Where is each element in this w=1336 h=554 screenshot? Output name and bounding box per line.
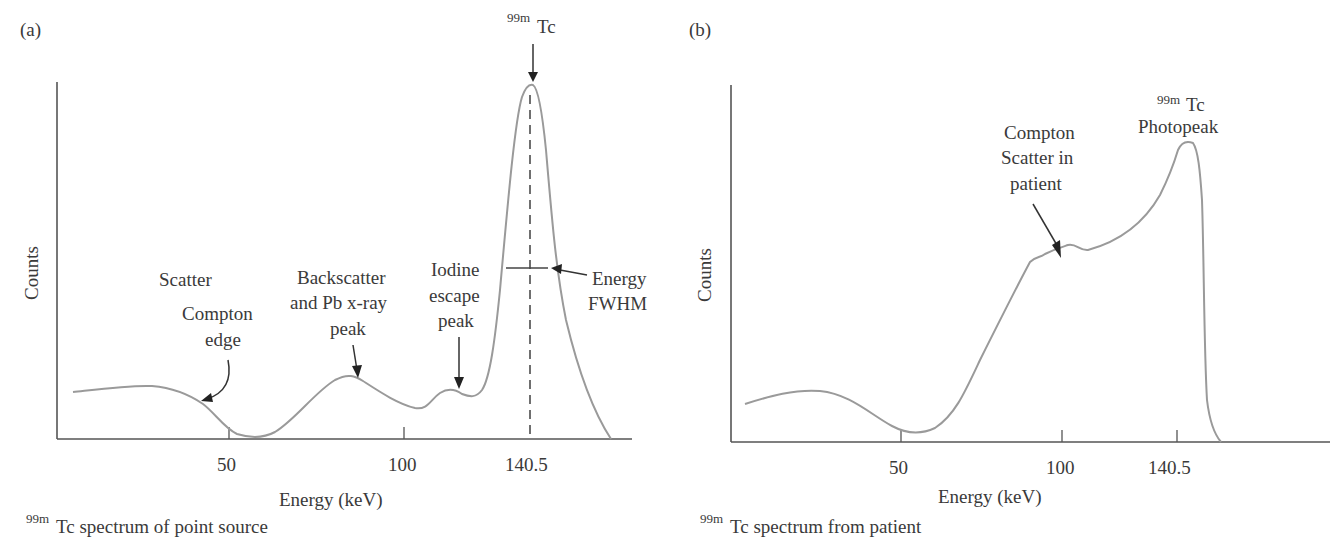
x-tick-label-140-5: 140.5 <box>1148 457 1191 478</box>
figure: (a) 99m Tc Scatter Compton edge Backscat… <box>0 0 1336 554</box>
compton-scatter-label-3: patient <box>1010 173 1062 194</box>
caption: Tc spectrum from patient <box>730 516 922 537</box>
x-tick-label-140-5: 140.5 <box>505 454 548 475</box>
y-axis-label: Counts <box>694 248 715 302</box>
panel-a-label: (a) <box>20 19 41 41</box>
spectrum-curve <box>745 142 1221 442</box>
x-tick-label-50: 50 <box>217 454 236 475</box>
scatter-label: Scatter <box>159 269 212 290</box>
compton-scatter-label-2: Scatter in <box>1001 147 1074 168</box>
compton-scatter-label-1: Compton <box>1004 122 1075 143</box>
photopeak-label-2: Photopeak <box>1138 116 1219 137</box>
fwhm-label-2: FWHM <box>588 293 647 314</box>
compton-edge-arrow <box>207 360 229 399</box>
caption-sup: 99m <box>26 511 49 526</box>
photopeak-sup: 99m <box>507 10 530 25</box>
backscatter-label-3: peak <box>330 318 366 339</box>
photopeak-label: Tc <box>537 16 556 37</box>
x-tick-label-100: 100 <box>1046 457 1075 478</box>
x-tick-label-50: 50 <box>889 457 908 478</box>
iodine-label-2: escape <box>429 285 480 306</box>
backscatter-label-2: and Pb x-ray <box>290 292 388 313</box>
x-tick-label-100: 100 <box>388 454 417 475</box>
x-axis-label: Energy (keV) <box>938 486 1042 508</box>
compton-scatter-arrow <box>1033 204 1058 247</box>
fwhm-label-1: Energy <box>592 268 647 289</box>
panel-a: (a) 99m Tc Scatter Compton edge Backscat… <box>20 10 647 537</box>
fwhm-arrow <box>560 270 587 275</box>
arrowhead-icon <box>201 393 213 402</box>
caption-sup: 99m <box>700 511 723 526</box>
panel-b: (b) Compton Scatter in patient 99m Tc Ph… <box>689 19 1330 537</box>
photopeak-sup: 99m <box>1157 92 1180 107</box>
arrowhead-icon <box>528 72 538 82</box>
arrowhead-icon <box>454 377 464 389</box>
iodine-label-3: peak <box>438 310 474 331</box>
y-axis-label: Counts <box>21 246 42 300</box>
caption: Tc spectrum of point source <box>56 516 268 537</box>
backscatter-label-1: Backscatter <box>297 267 386 288</box>
compton-edge-label-1: Compton <box>182 303 253 324</box>
arrowhead-icon <box>1052 240 1061 258</box>
panel-b-label: (b) <box>689 19 711 41</box>
compton-edge-label-2: edge <box>205 329 241 350</box>
photopeak-label-1: Tc <box>1186 94 1205 115</box>
x-axis-label: Energy (keV) <box>279 489 383 511</box>
iodine-label-1: Iodine <box>431 259 480 280</box>
